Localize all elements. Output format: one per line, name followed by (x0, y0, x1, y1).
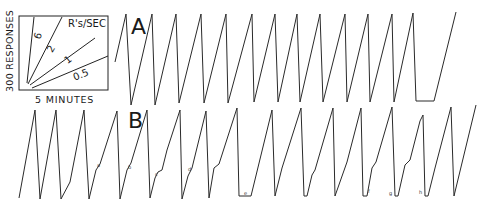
panel-letter-B: B (128, 110, 143, 132)
event-mark-e: e (244, 190, 247, 196)
x-axis-label: 5 MINUTES (35, 94, 94, 105)
trace-A (115, 12, 456, 105)
event-mark-c: c (155, 171, 158, 177)
panel-letter-A: A (131, 16, 146, 38)
rate-line-6 (27, 17, 34, 83)
event-mark-f: f (368, 188, 370, 194)
event-mark-g: g (389, 190, 392, 196)
rate-title: R's/SEC (68, 19, 106, 29)
trace-B (19, 105, 476, 199)
y-axis-label: 300 RESPONSES (4, 10, 15, 92)
event-mark-a: a (97, 162, 100, 168)
event-mark-b: b (128, 164, 131, 170)
trace-B-line (19, 105, 476, 199)
trace-A-line (115, 12, 456, 105)
event-mark-h: h (419, 189, 422, 195)
event-mark-d: d (188, 166, 191, 172)
